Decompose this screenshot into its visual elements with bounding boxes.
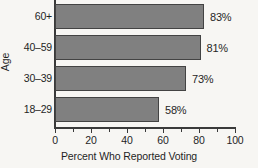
bar-40-59 — [55, 35, 201, 60]
bar-value-2: 73% — [192, 73, 213, 85]
x-tick-label-0: 0 — [52, 134, 58, 146]
x-tick-60 — [163, 128, 164, 133]
x-axis-title: Percent Who Reported Voting — [0, 150, 258, 162]
y-tick-label-0: 60+ — [8, 10, 52, 22]
x-tick-label-80: 80 — [193, 134, 204, 146]
x-tick-40 — [127, 128, 128, 133]
x-tick-100 — [235, 128, 236, 133]
x-tick-label-20: 20 — [85, 134, 96, 146]
y-axis-title: Age — [0, 40, 11, 84]
bar-value-3: 58% — [165, 104, 186, 116]
x-minor-tick-70 — [181, 128, 182, 132]
x-minor-tick-90 — [217, 128, 218, 132]
plot-area: 83% 81% 73% 58% — [55, 2, 235, 128]
bar-18-29 — [55, 97, 159, 122]
bar-value-0: 83% — [210, 11, 231, 23]
bar-60-plus — [55, 4, 204, 29]
x-tick-label-60: 60 — [157, 134, 168, 146]
x-minor-tick-10 — [73, 128, 74, 132]
y-tick-label-2: 30–39 — [8, 72, 52, 84]
bar-30-39 — [55, 66, 186, 91]
bar-value-1: 81% — [207, 42, 228, 54]
x-tick-20 — [91, 128, 92, 133]
x-tick-label-100: 100 — [227, 134, 244, 146]
y-tick-label-3: 18–29 — [8, 103, 52, 115]
x-minor-tick-50 — [145, 128, 146, 132]
x-tick-label-40: 40 — [121, 134, 132, 146]
y-tick-label-1: 40–59 — [8, 41, 52, 53]
x-tick-80 — [199, 128, 200, 133]
x-tick-0 — [55, 128, 56, 133]
x-minor-tick-30 — [109, 128, 110, 132]
bar-chart: 60+ 40–59 30–39 18–29 83% 81% 73% 58% 0 — [0, 0, 258, 168]
